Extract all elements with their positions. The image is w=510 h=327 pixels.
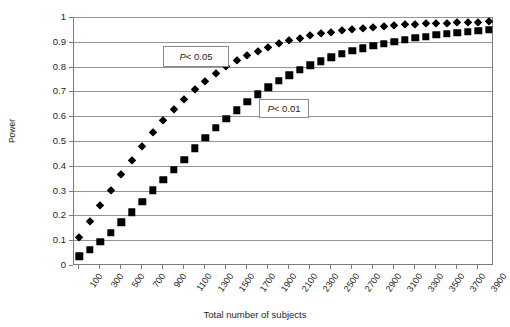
- data-point: [370, 42, 377, 49]
- data-point: [117, 170, 125, 178]
- data-point: [349, 47, 356, 54]
- x-tick-mark: [309, 265, 310, 269]
- data-point: [380, 22, 388, 30]
- data-point: [275, 77, 282, 84]
- data-point: [138, 142, 146, 150]
- x-tick-mark: [141, 265, 142, 269]
- data-point: [485, 17, 493, 25]
- x-tick-mark: [120, 265, 121, 269]
- x-tick-mark: [246, 265, 247, 269]
- x-tick-label: 1300: [217, 272, 236, 294]
- x-tick-label: 3700: [469, 272, 488, 294]
- x-tick-label: 3100: [406, 272, 425, 294]
- data-point: [464, 18, 472, 26]
- data-point: [107, 186, 115, 194]
- data-point: [432, 19, 440, 27]
- data-point: [244, 98, 251, 105]
- data-point: [411, 20, 419, 28]
- gridline: [74, 91, 492, 92]
- data-point: [86, 246, 93, 253]
- x-tick-mark: [372, 265, 373, 269]
- x-tick-mark: [204, 265, 205, 269]
- data-point: [275, 39, 283, 47]
- x-tick-label: 1700: [259, 272, 278, 294]
- x-tick-mark: [414, 265, 415, 269]
- data-point: [265, 83, 272, 90]
- x-tick-mark: [162, 265, 163, 269]
- power-curve-chart: 00.10.20.30.40.50.60.70.80.91 Power 1003…: [0, 0, 510, 327]
- data-point: [369, 23, 377, 31]
- x-tick-label: 3900: [490, 272, 509, 294]
- x-tick-mark: [351, 265, 352, 269]
- data-point: [422, 19, 430, 27]
- data-point: [202, 134, 209, 141]
- x-tick-mark: [288, 265, 289, 269]
- annotation-p-value: < 0.05: [186, 51, 213, 62]
- annotation-p-lt-005: P < 0.05: [163, 46, 229, 67]
- data-point: [338, 50, 345, 57]
- x-tick-label: 1900: [280, 272, 299, 294]
- x-tick-mark: [456, 265, 457, 269]
- y-tick-label: 0.2: [53, 211, 66, 221]
- data-point: [149, 128, 157, 136]
- data-point: [422, 33, 429, 40]
- gridline: [74, 240, 492, 241]
- x-tick-label: 3300: [427, 272, 446, 294]
- data-point: [391, 38, 398, 45]
- data-point: [454, 29, 461, 36]
- data-point: [306, 31, 314, 39]
- data-point: [118, 219, 125, 226]
- data-point: [107, 229, 114, 236]
- data-point: [296, 34, 304, 42]
- data-point: [170, 105, 178, 113]
- data-point: [380, 40, 387, 47]
- y-tick-label: 0.1: [53, 235, 66, 245]
- data-point: [453, 18, 461, 26]
- data-point: [401, 20, 409, 28]
- data-point: [286, 72, 293, 79]
- gridline: [74, 141, 492, 142]
- x-axis-title: Total number of subjects: [0, 309, 510, 320]
- data-point: [327, 28, 335, 36]
- y-tick-label: 0: [61, 260, 66, 270]
- x-tick-mark: [225, 265, 226, 269]
- gridline: [74, 166, 492, 167]
- gridline: [74, 191, 492, 192]
- x-tick-mark: [477, 265, 478, 269]
- x-tick-label: 700: [152, 272, 168, 289]
- y-tick-label: 0.6: [53, 111, 66, 121]
- data-point: [443, 19, 451, 27]
- data-point: [443, 30, 450, 37]
- data-point: [243, 51, 251, 59]
- data-point: [348, 25, 356, 33]
- gridline: [74, 17, 492, 18]
- annotation-p-lt-001: P < 0.01: [259, 99, 309, 118]
- x-tick-mark: [393, 265, 394, 269]
- annotation-p-value: < 0.01: [274, 103, 301, 114]
- x-tick-label: 2900: [385, 272, 404, 294]
- x-tick-label: 3500: [448, 272, 467, 294]
- data-point: [474, 18, 482, 26]
- data-point: [223, 115, 230, 122]
- x-tick-mark: [435, 265, 436, 269]
- data-point: [96, 201, 104, 209]
- data-point: [128, 156, 136, 164]
- data-point: [128, 209, 135, 216]
- data-point: [485, 26, 492, 33]
- x-tick-label: 2300: [322, 272, 341, 294]
- x-tick-mark: [267, 265, 268, 269]
- data-point: [233, 56, 241, 64]
- data-point: [307, 62, 314, 69]
- data-point: [264, 43, 272, 51]
- data-point: [76, 253, 83, 260]
- data-point: [401, 36, 408, 43]
- data-point: [180, 95, 188, 103]
- x-tick-label: 900: [173, 272, 189, 289]
- x-tick-label: 1100: [196, 272, 214, 293]
- y-axis-title: Power: [7, 101, 17, 161]
- plot-area: [73, 17, 493, 265]
- data-point: [212, 69, 220, 77]
- y-tick-label: 0.4: [53, 161, 66, 171]
- data-point: [328, 54, 335, 61]
- x-tick-label: 1500: [238, 272, 257, 294]
